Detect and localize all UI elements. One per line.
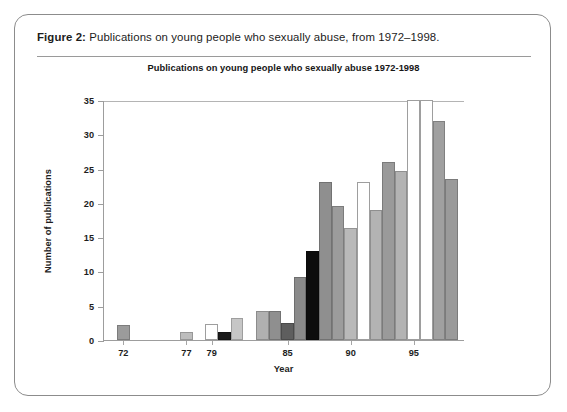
x-axis-tick-label: 90 (346, 348, 356, 358)
y-axis-label-text: Number of publications (41, 101, 55, 341)
y-axis-label: Number of publications (41, 101, 55, 341)
y-axis-tick (98, 272, 103, 273)
bar (306, 251, 319, 340)
x-axis-tick-label: 72 (118, 348, 128, 358)
x-axis-label: Year (103, 364, 464, 374)
bar (395, 171, 408, 340)
y-axis-tick (98, 204, 103, 205)
y-axis-tick (98, 101, 103, 102)
bar (117, 325, 130, 340)
bar (420, 100, 433, 340)
bar (319, 182, 332, 340)
x-axis-line (103, 340, 464, 341)
bar (231, 318, 244, 340)
bar (445, 179, 458, 340)
x-axis-tick-label: 77 (181, 348, 191, 358)
bar (407, 100, 420, 340)
figure-caption-text: Publications on young people who sexuall… (86, 31, 440, 43)
bar (332, 206, 345, 340)
bar (382, 162, 395, 340)
y-axis-tick (98, 341, 103, 342)
bar (281, 323, 294, 340)
y-axis-tick (98, 238, 103, 239)
plot-area: 05101520253035 727779859095 (103, 101, 464, 341)
bar (180, 332, 193, 340)
bar (205, 324, 218, 340)
x-axis-tick-label: 85 (282, 348, 292, 358)
x-axis-tick-label: 79 (207, 348, 217, 358)
bar (218, 332, 231, 340)
y-axis-line (103, 101, 104, 342)
caption-divider (37, 56, 531, 57)
figure-caption-label: Figure 2: (37, 31, 86, 43)
bar (370, 210, 383, 340)
x-axis-tick (351, 341, 352, 345)
chart-title: Publications on young people who sexuall… (15, 63, 552, 73)
y-axis-tick-label: 0 (89, 336, 94, 346)
y-axis-tick (98, 307, 103, 308)
y-axis-tick-label: 10 (84, 267, 94, 277)
bar (344, 228, 357, 340)
y-axis-tick-label: 25 (84, 165, 94, 175)
bar (357, 182, 370, 340)
x-axis-tick (123, 341, 124, 345)
x-axis-tick-label: 95 (409, 348, 419, 358)
figure-caption: Figure 2: Publications on young people w… (37, 31, 531, 43)
x-axis-tick (288, 341, 289, 345)
bar (269, 311, 282, 340)
y-axis-tick-label: 30 (84, 130, 94, 140)
x-axis-tick (414, 341, 415, 345)
y-axis-tick-label: 35 (84, 96, 94, 106)
y-axis-tick (98, 170, 103, 171)
y-axis-tick-label: 5 (89, 302, 94, 312)
bar (294, 277, 307, 340)
y-axis-tick-label: 20 (84, 199, 94, 209)
y-axis-tick-label: 15 (84, 233, 94, 243)
bar (256, 311, 269, 340)
x-axis-tick (212, 341, 213, 345)
bar (433, 121, 446, 340)
x-axis-tick (186, 341, 187, 345)
figure-card: Figure 2: Publications on young people w… (14, 14, 551, 396)
y-axis-tick (98, 135, 103, 136)
